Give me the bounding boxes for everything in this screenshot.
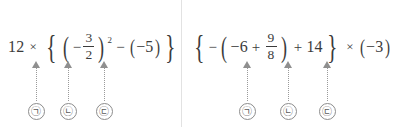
pointer-arrow-left-3 xyxy=(100,61,109,101)
arrow-shaft xyxy=(36,68,37,101)
paren2-open: ( xyxy=(360,39,365,56)
marker-label-left-1: ㉠ xyxy=(28,103,45,120)
brace-open: { xyxy=(45,35,56,59)
inner-negative-sign: − xyxy=(73,39,83,56)
fraction-denominator: 8 xyxy=(266,48,277,62)
number-fourteen: 14 xyxy=(306,38,322,56)
arrowhead-icon xyxy=(64,61,72,68)
arrow-shaft xyxy=(247,68,248,101)
fraction-denominator: 2 xyxy=(83,48,94,62)
marker-label-right-3: ㉢ xyxy=(319,103,336,120)
negative-three: −3 xyxy=(366,38,383,56)
arrowhead-icon xyxy=(243,61,251,68)
pointer-arrow-right-3 xyxy=(323,61,332,101)
arrow-shaft xyxy=(288,68,289,101)
paren2-close: ) xyxy=(155,39,160,56)
right-expression: { − ( −6 + 9 8 ) + 14 } × ( −3 ) xyxy=(190,30,391,64)
arrow-shaft xyxy=(104,68,105,101)
fraction-three-halves: 3 2 xyxy=(83,31,94,62)
marker-label-right-2: ㉡ xyxy=(280,103,297,120)
negative-five: −5 xyxy=(136,38,153,56)
coefficient-12: 12 xyxy=(8,38,24,56)
left-problem-panel: 12 × { ( − 3 2 ) 2 − ( −5 ) } xyxy=(0,0,181,127)
marker-label-left-2: ㉡ xyxy=(60,103,77,120)
arrowhead-icon xyxy=(284,61,292,68)
arrow-shaft xyxy=(327,68,328,101)
paren-open: ( xyxy=(63,36,70,58)
arrowhead-icon xyxy=(100,61,108,68)
math-problem-board: 12 × { ( − 3 2 ) 2 − ( −5 ) } xyxy=(0,0,410,127)
brace-close: } xyxy=(164,35,175,59)
fraction-numerator: 3 xyxy=(83,31,94,45)
paren2-open: ( xyxy=(130,39,135,56)
arrowhead-icon xyxy=(323,61,331,68)
paren2-close: ) xyxy=(385,39,390,56)
pointer-arrow-right-1 xyxy=(243,61,252,101)
outer-plus-operator: + xyxy=(290,39,307,56)
multiplication-operator: × xyxy=(341,39,359,55)
negative-six: −6 xyxy=(230,38,247,56)
fraction-nine-eighths: 9 8 xyxy=(266,31,277,62)
brace-open: { xyxy=(194,35,205,59)
multiplication-operator: × xyxy=(24,39,42,55)
marker-label-right-1: ㉠ xyxy=(239,103,256,120)
paren-close: ) xyxy=(98,36,105,58)
left-expression: 12 × { ( − 3 2 ) 2 − ( −5 ) } xyxy=(8,30,179,64)
inner-plus-operator: + xyxy=(248,39,265,56)
fraction-numerator: 9 xyxy=(266,31,277,45)
pointer-arrow-right-2 xyxy=(284,61,293,101)
paren-open: ( xyxy=(221,36,228,58)
pointer-arrow-left-1 xyxy=(32,61,41,101)
paren-close: ) xyxy=(280,36,287,58)
right-problem-panel: { − ( −6 + 9 8 ) + 14 } × ( −3 ) xyxy=(182,0,410,127)
pointer-arrow-left-2 xyxy=(64,61,73,101)
marker-label-left-3: ㉢ xyxy=(96,103,113,120)
arrow-shaft xyxy=(68,68,69,101)
exponent-two: 2 xyxy=(108,35,113,45)
leading-negative-sign: − xyxy=(209,39,219,56)
brace-close: } xyxy=(326,35,337,59)
subtraction-operator: − xyxy=(112,39,129,56)
arrowhead-icon xyxy=(32,61,40,68)
